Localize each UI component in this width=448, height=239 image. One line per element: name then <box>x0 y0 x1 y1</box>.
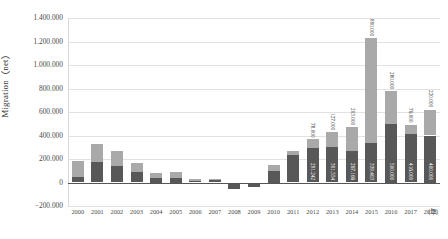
bar-segment-upper[interactable] <box>170 172 182 178</box>
x-tick-label: 2003 <box>130 208 143 216</box>
bar-segment-upper[interactable] <box>189 179 201 180</box>
bar-column[interactable] <box>170 18 182 206</box>
bar-value-label-lower: 416.000 <box>408 163 413 180</box>
bar-segment-upper[interactable] <box>72 161 84 177</box>
bar-value-label-lower: 400.000 <box>427 163 432 180</box>
x-tick-label: 2013 <box>326 208 339 216</box>
bar-segment-upper[interactable] <box>209 179 221 180</box>
y-tick-label: 1.000.000 <box>33 61 63 69</box>
bar-column[interactable]: 416.00076.000 <box>405 18 417 206</box>
x-tick-label: 2010 <box>267 208 280 216</box>
x-tick-label: 2016 <box>385 208 398 216</box>
zero-baseline <box>68 183 440 184</box>
bar-segment-upper[interactable] <box>424 110 436 136</box>
x-tick-label: 2006 <box>189 208 202 216</box>
bar-value-label-lower: 267.166 <box>349 163 354 180</box>
x-tick-label: 2008 <box>228 208 241 216</box>
x-tick-label: 2011 <box>287 208 300 216</box>
bar-column[interactable]: 400.000220.000 <box>424 18 436 206</box>
bar-column[interactable] <box>131 18 143 206</box>
x-tick-label: 2004 <box>150 208 163 216</box>
bar-segment-upper[interactable] <box>287 151 299 156</box>
bar-segment-upper[interactable] <box>268 165 280 171</box>
bar-segment-lower[interactable] <box>287 155 299 182</box>
bar-value-label-lower: 291.242 <box>310 163 315 180</box>
x-tick-label: 2002 <box>111 208 124 216</box>
x-tick-label: 2007 <box>208 208 221 216</box>
bar-column[interactable] <box>150 18 162 206</box>
bar-column[interactable] <box>189 18 201 206</box>
bar-segment-upper[interactable] <box>131 163 143 172</box>
bar-column[interactable] <box>209 18 221 206</box>
x-tick-label: 2009 <box>248 208 261 216</box>
bar-column[interactable] <box>72 18 84 206</box>
bar-segment-upper[interactable] <box>111 151 123 166</box>
bar-value-label-upper: 78.000 <box>310 123 315 138</box>
bar-column[interactable]: 291.24278.000 <box>307 18 319 206</box>
x-tick-label: 2015 <box>365 208 378 216</box>
bar-segment-upper[interactable] <box>385 91 397 124</box>
y-tick-label: 400.000 <box>39 132 63 140</box>
bar-column[interactable] <box>111 18 123 206</box>
x-tick-label: 2005 <box>169 208 182 216</box>
bar-value-label-upper: 220.000 <box>427 90 432 107</box>
bar-column[interactable] <box>228 18 240 206</box>
bar-series-group: 291.24278.000301.554127.000267.166203.00… <box>68 18 440 206</box>
x-tick-label: 2001 <box>91 208 104 216</box>
y-tick-label: 600.000 <box>39 108 63 116</box>
bar-value-label-upper: 76.000 <box>408 108 413 123</box>
bar-column[interactable]: 267.166203.000 <box>346 18 358 206</box>
bar-column[interactable] <box>91 18 103 206</box>
bar-value-label-lower: 339.403 <box>369 163 374 180</box>
x-tick-label: 2014 <box>346 208 359 216</box>
bar-segment-lower[interactable] <box>268 171 280 183</box>
bar-column[interactable] <box>268 18 280 206</box>
bar-column[interactable]: 301.554127.000 <box>326 18 338 206</box>
bar-segment-lower[interactable] <box>131 172 143 183</box>
y-tick-label: 0 <box>59 179 63 187</box>
bar-value-label-lower: 301.554 <box>330 163 335 180</box>
bar-value-label-upper: 890.000 <box>369 19 374 36</box>
x-tick-label: 2000 <box>71 208 84 216</box>
x-axis-tick-labels: （年） 200020012002200320042005200620072008… <box>68 208 440 224</box>
y-tick-label: 800.000 <box>39 85 63 93</box>
gridline <box>68 206 440 207</box>
bar-column[interactable]: 339.403890.000 <box>365 18 377 206</box>
bar-value-label-upper: 280.000 <box>388 72 393 89</box>
bar-segment-upper[interactable] <box>346 127 358 151</box>
bar-column[interactable]: 500.000280.000 <box>385 18 397 206</box>
x-tick-label: 2017 <box>404 208 417 216</box>
bar-value-label-upper: 203.000 <box>349 108 354 125</box>
y-tick-label: 1.200.000 <box>33 38 63 46</box>
bar-column[interactable] <box>287 18 299 206</box>
bar-value-label-lower: 500.000 <box>388 163 393 180</box>
y-tick-label: −200.000 <box>35 202 63 210</box>
bar-segment-upper[interactable] <box>405 125 417 134</box>
x-tick-label: 2018 <box>424 208 437 216</box>
plot-area: 291.24278.000301.554127.000267.166203.00… <box>68 18 440 206</box>
y-tick-label: 200.000 <box>39 155 63 163</box>
bar-segment-upper[interactable] <box>365 38 377 143</box>
bar-value-label-upper: 127.000 <box>330 113 335 130</box>
bar-segment-upper[interactable] <box>307 139 319 148</box>
bar-segment-lower[interactable] <box>91 162 103 182</box>
bar-segment-lower[interactable] <box>111 166 123 183</box>
bar-column[interactable] <box>248 18 260 206</box>
migration-bar-chart: Migration（net） 1.400.0001.200.0001.000.0… <box>0 0 448 239</box>
y-axis-tick-labels: 1.400.0001.200.0001.000.000800.000600.00… <box>0 18 66 206</box>
x-tick-label: 2012 <box>306 208 319 216</box>
bar-segment-upper[interactable] <box>326 132 338 147</box>
y-tick-label: 1.400.000 <box>33 14 63 22</box>
bar-segment-upper[interactable] <box>150 173 162 178</box>
bar-segment-upper[interactable] <box>91 144 103 162</box>
